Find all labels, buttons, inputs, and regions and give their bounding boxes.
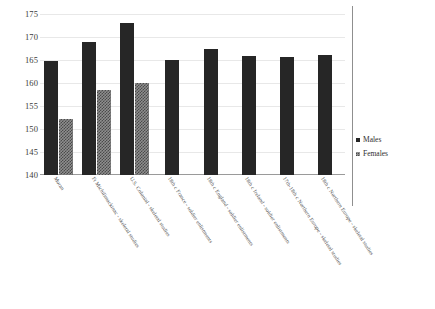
bar-males: [280, 57, 294, 175]
y-tick-label: 145: [4, 148, 38, 157]
y-tick-label: 160: [4, 79, 38, 88]
x-axis-label: 18th c England - soldier enlistments: [205, 176, 254, 247]
bar-group: [154, 14, 192, 175]
bar-group: [116, 14, 154, 175]
y-tick-label: 150: [4, 125, 38, 134]
bar-females: [97, 90, 111, 175]
bar-group: [193, 14, 231, 175]
x-axis-label: U.S. Colonial - skeletal studies: [129, 176, 172, 238]
bar-males: [44, 61, 58, 175]
bar-group: [307, 14, 345, 175]
plot-right-border: [352, 6, 353, 206]
legend-swatch-males-icon: [356, 138, 360, 142]
x-axis-label: 18th c France - soldier enlistments: [167, 176, 214, 244]
x-axis-label: Moran: [53, 176, 66, 191]
y-tick-label: 170: [4, 33, 38, 42]
legend-label-females: Females: [363, 150, 388, 158]
bar-group: [231, 14, 269, 175]
bar-females: [59, 119, 73, 175]
bar-chart: 175 170 165 160 155 150 145 140 MoranFt …: [0, 0, 435, 309]
legend: Males Females: [356, 133, 434, 161]
bar-group: [40, 14, 78, 175]
bar-males: [318, 55, 332, 175]
bar-males: [120, 23, 134, 175]
y-tick-label: 140: [4, 171, 38, 180]
bar-males: [82, 42, 96, 175]
y-tick-label: 165: [4, 56, 38, 65]
legend-label-males: Males: [363, 136, 381, 144]
legend-item-males: Males: [356, 133, 434, 147]
legend-item-females: Females: [356, 147, 434, 161]
bar-group: [269, 14, 307, 175]
plot-area: [40, 14, 345, 175]
y-axis-tick-labels: 175 170 165 160 155 150 145 140: [0, 14, 38, 175]
bar-males: [165, 60, 179, 175]
x-axis-label: 18th c Ireland - soldier enlistments: [243, 176, 290, 245]
bar-males: [242, 56, 256, 175]
bar-males: [204, 49, 218, 175]
bar-group: [78, 14, 116, 175]
bar-females: [135, 83, 149, 175]
y-tick-label: 175: [4, 10, 38, 19]
x-axis-category-labels: MoranFt Michilimackinac - skeletal studi…: [40, 176, 345, 296]
y-tick-label: 155: [4, 102, 38, 111]
legend-swatch-females-icon: [356, 152, 360, 156]
